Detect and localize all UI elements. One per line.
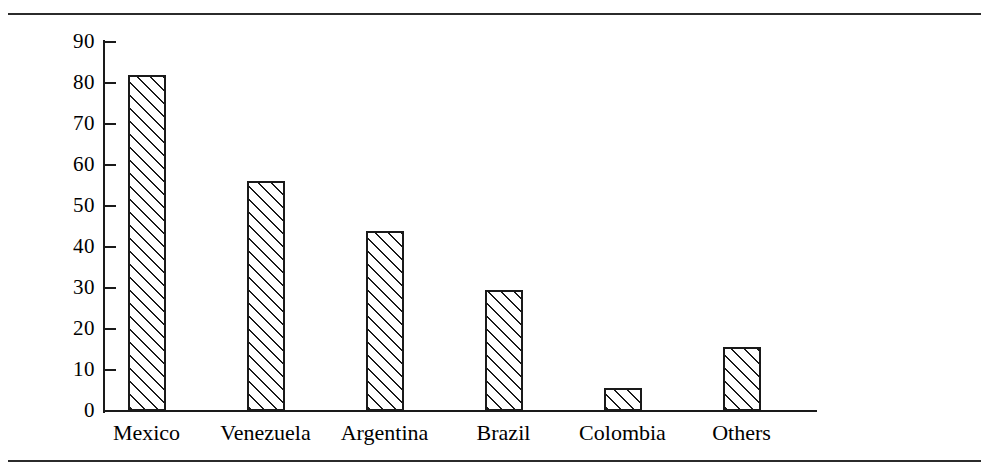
- y-axis-tick-label: 40: [23, 236, 95, 257]
- bar-brazil: [485, 290, 523, 411]
- plot-area: Dollars (billions): [103, 42, 817, 411]
- y-axis-tick-label: 70: [23, 113, 95, 134]
- bar-venezuela: [247, 181, 285, 411]
- chart-figure: 0102030405060708090 Dollars (billions) M…: [0, 0, 989, 476]
- y-axis-tick-label: 60: [23, 154, 95, 175]
- figure-bottom-rule: [8, 460, 981, 462]
- y-axis-tick-label: 30: [23, 277, 95, 298]
- x-axis-label-others: Others: [652, 418, 832, 448]
- y-axis-tick-label: 80: [23, 72, 95, 93]
- y-axis-tick-label: 10: [23, 359, 95, 380]
- bar-others: [723, 347, 761, 411]
- figure-top-rule: [8, 13, 981, 15]
- bar-colombia: [604, 388, 642, 411]
- y-axis-tick-label: 90: [23, 31, 95, 52]
- y-axis-tick-label: 50: [23, 195, 95, 216]
- bar-mexico: [128, 75, 166, 411]
- y-axis-tick-label: 20: [23, 318, 95, 339]
- bar-argentina: [366, 231, 404, 411]
